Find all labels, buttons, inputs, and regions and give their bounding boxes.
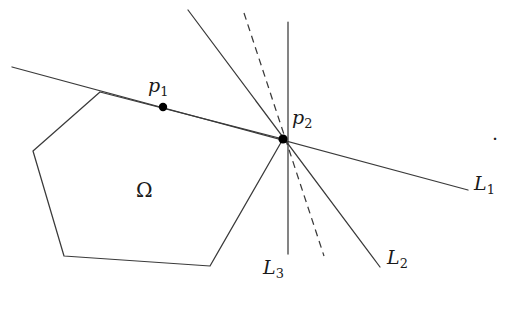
- label-L1: L1: [474, 174, 495, 197]
- label-omega-region: Ω: [136, 180, 153, 200]
- point-p1-dot: [159, 103, 167, 111]
- lines-group: [12, 10, 468, 267]
- label-p2: p2: [292, 108, 312, 131]
- label-L1-subscript: 1: [487, 182, 495, 197]
- label-L3-base: L: [263, 256, 276, 278]
- label-L3: L3: [263, 258, 284, 281]
- label-L2-base: L: [387, 246, 400, 268]
- label-p1-subscript: 1: [160, 84, 168, 99]
- label-p1: p1: [148, 76, 168, 99]
- label-p1-base: p: [148, 74, 160, 96]
- diagram-svg: [0, 0, 513, 332]
- omega-polygon: [33, 92, 283, 266]
- label-p2-subscript: 2: [304, 116, 312, 131]
- figure-canvas: p1 p2 Ω L1 L2 L3 .: [0, 0, 513, 332]
- point-p2-dot: [278, 134, 287, 143]
- trailing-period: .: [492, 124, 498, 143]
- dashed-supporting-line: [244, 13, 324, 256]
- label-L1-base: L: [474, 172, 487, 194]
- label-L2: L2: [387, 248, 408, 271]
- label-p2-base: p: [292, 106, 304, 128]
- label-L3-subscript: 3: [276, 266, 284, 281]
- label-L2-subscript: 2: [400, 256, 408, 271]
